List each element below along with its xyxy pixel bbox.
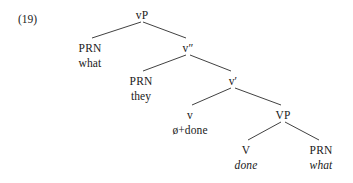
node-prn-object-label: PRN bbox=[310, 143, 333, 158]
node-prn-spec-vbar-label: PRN bbox=[130, 74, 153, 89]
node-v-double-bar-label: v″ bbox=[183, 41, 194, 56]
branch-vp-to-verb bbox=[248, 122, 281, 140]
node-little-v-terminal: ø+done bbox=[172, 123, 207, 138]
node-prn-spec-vp-terminal: what bbox=[79, 56, 102, 71]
branch-vbar-to-little-v bbox=[192, 88, 231, 105]
node-v-bar-label: v′ bbox=[229, 74, 238, 89]
node-v-double-bar: v″ bbox=[183, 41, 194, 56]
node-verb-terminal: done bbox=[235, 158, 258, 173]
node-prn-spec-vp-label: PRN bbox=[79, 41, 102, 56]
node-verb: V done bbox=[235, 143, 258, 173]
node-prn-object-terminal: what bbox=[310, 158, 333, 173]
node-prn-spec-vbar-terminal: they bbox=[130, 89, 153, 104]
branch-vbar-to-vp bbox=[235, 88, 281, 105]
node-prn-spec-vbar: PRN they bbox=[130, 74, 153, 104]
branch-vp-to-spec-vp bbox=[92, 22, 141, 38]
branch-vp-to-object bbox=[285, 122, 319, 140]
node-little-v: v ø+done bbox=[172, 108, 207, 138]
node-vp-phrase-label: VP bbox=[275, 108, 290, 123]
node-prn-object: PRN what bbox=[310, 143, 333, 173]
node-verb-label: V bbox=[235, 143, 258, 158]
branch-vp-to-v-double-bar bbox=[143, 22, 186, 38]
node-vp: vP bbox=[136, 8, 148, 23]
node-vp-label: vP bbox=[136, 8, 148, 23]
node-v-bar: v′ bbox=[229, 74, 238, 89]
tree-branch-lines bbox=[0, 0, 353, 183]
branch-v2-to-spec-vbar bbox=[143, 55, 186, 71]
node-prn-spec-vp: PRN what bbox=[79, 41, 102, 71]
node-little-v-label: v bbox=[172, 108, 207, 123]
example-number: (19) bbox=[18, 14, 37, 26]
syntax-tree-figure: (19) vP PRN what v″ PRN they v′ v ø+done… bbox=[0, 0, 353, 183]
branch-v2-to-v-bar bbox=[190, 55, 231, 71]
node-vp-phrase: VP bbox=[275, 108, 290, 123]
